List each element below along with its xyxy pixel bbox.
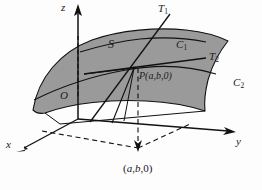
point-p-label-coords: (a,b,0) <box>145 70 172 81</box>
tangent-t1-label: T1 <box>158 3 168 15</box>
curve-c2-label: C2 <box>233 77 244 89</box>
z-axis-label: z <box>61 2 65 13</box>
projection-arrowhead <box>134 140 142 152</box>
curve-c2-label-sub: 2 <box>240 81 244 90</box>
point-p-marker <box>133 67 136 70</box>
tangent-t2-label: T2 <box>209 51 219 63</box>
tangent-t1-label-sub: 1 <box>164 7 168 16</box>
y-axis-label: y <box>236 136 241 147</box>
surface-edge-to-ground-left <box>45 113 60 124</box>
x-axis-label: x <box>6 139 11 150</box>
projection-label-rest: ,0) <box>140 162 152 174</box>
surface-label: S <box>108 38 114 50</box>
figure-canvas: z y x O S T1 T2 C1 C2 P(a,b,0) (a,b,0) <box>0 0 262 190</box>
projection-point-label: (a,b,0) <box>123 163 152 174</box>
point-p-label: P(a,b,0) <box>139 71 172 81</box>
base-edge-right <box>60 111 205 124</box>
curve-c1-label-sub: 1 <box>183 43 187 52</box>
dash-left-edge <box>42 131 138 148</box>
tangent-t2-label-sub: 2 <box>215 55 219 64</box>
curve-c1-label: C1 <box>176 39 187 51</box>
origin-label: O <box>60 90 68 101</box>
